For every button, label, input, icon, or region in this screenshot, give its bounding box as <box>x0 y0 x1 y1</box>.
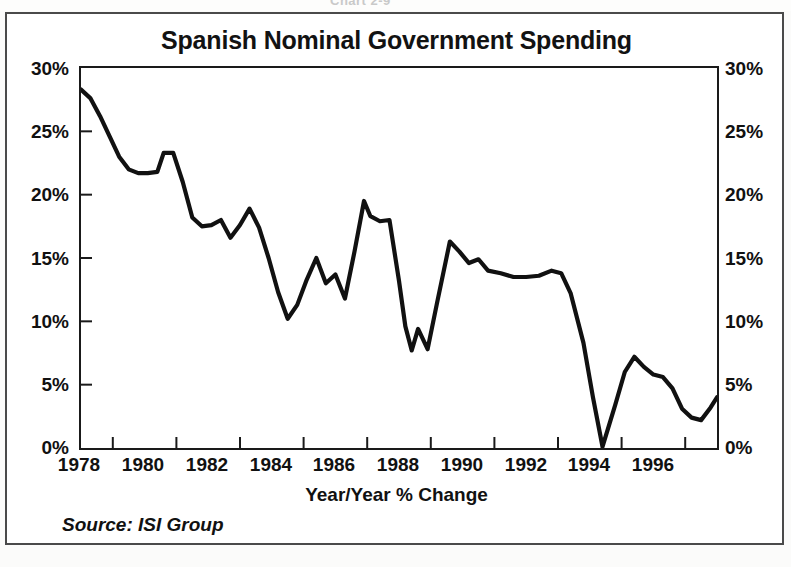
y-tick-label-left-5: 5% <box>7 374 69 396</box>
x-tick-label-1980: 1980 <box>111 454 175 476</box>
y-tick-label-right-10: 10% <box>725 311 785 333</box>
data-series-line <box>81 90 717 447</box>
chart-figure-frame: Spanish Nominal Government Spending 30% … <box>5 12 784 545</box>
y-tick-label-right-20: 20% <box>725 184 785 206</box>
x-tick-label-1992: 1992 <box>494 454 558 476</box>
y-tick-label-left-10: 10% <box>7 311 69 333</box>
source-note: Source: ISI Group <box>62 514 224 536</box>
y-tick-label-right-5: 5% <box>725 374 785 396</box>
y-tick-label-right-0: 0% <box>725 437 785 459</box>
x-tick-label-1994: 1994 <box>557 454 621 476</box>
y-tick-label-right-25: 25% <box>725 121 785 143</box>
y-tick-label-right-30: 30% <box>725 58 785 80</box>
cut-off-header-text: Chart 2-9 <box>330 0 391 8</box>
y-tick-label-left-25: 25% <box>7 121 69 143</box>
x-tick-label-1984: 1984 <box>239 454 303 476</box>
y-tick-label-left-30: 30% <box>7 58 69 80</box>
x-tick-label-1982: 1982 <box>175 454 239 476</box>
x-axis-caption: Year/Year % Change <box>7 484 786 506</box>
y-axis-ticks <box>81 131 92 384</box>
plot-svg <box>81 68 717 448</box>
x-tick-label-1988: 1988 <box>366 454 430 476</box>
y-tick-label-right-15: 15% <box>725 248 785 270</box>
x-tick-label-1996: 1996 <box>621 454 685 476</box>
scan-top-artifact: Chart 2-9 <box>0 0 791 11</box>
plot-area <box>79 66 719 450</box>
x-tick-label-1978: 1978 <box>47 454 111 476</box>
y-tick-label-left-20: 20% <box>7 184 69 206</box>
x-tick-label-1990: 1990 <box>430 454 494 476</box>
chart-title: Spanish Nominal Government Spending <box>7 26 786 55</box>
y-tick-label-left-15: 15% <box>7 248 69 270</box>
x-tick-label-1986: 1986 <box>302 454 366 476</box>
